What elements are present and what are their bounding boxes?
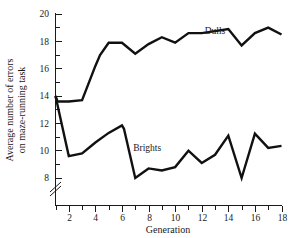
x-tick-label: 12 [198, 213, 208, 223]
y-tick-label: 20 [40, 9, 50, 19]
y-axis-tick-labels: 8101214161820 [40, 9, 50, 183]
series-line-dulls [56, 28, 282, 102]
x-tick-label: 8 [147, 213, 152, 223]
y-tick-label: 8 [44, 173, 49, 183]
line-chart: 8101214161820 24681012141618 Dulls Brigh… [0, 0, 289, 238]
x-axis-title: Generation [146, 224, 190, 235]
x-axis-tick-labels: 24681012141618 [67, 213, 287, 223]
chart-figure: 8101214161820 24681012141618 Dulls Brigh… [0, 0, 289, 238]
x-tick-label: 4 [93, 213, 98, 223]
y-axis-title-line2: on maze-running task [16, 67, 27, 154]
series-label-brights: Brights [133, 143, 161, 153]
x-tick-label: 2 [67, 213, 72, 223]
y-tick-label: 16 [40, 64, 50, 74]
series-line-brights [56, 96, 282, 178]
x-tick-label: 14 [224, 213, 234, 223]
x-tick-label: 10 [171, 213, 181, 223]
x-tick-label: 16 [251, 213, 261, 223]
x-tick-label: 18 [278, 213, 288, 223]
y-axis-title-line1: Average number of errors [4, 58, 15, 161]
x-tick-label: 6 [120, 213, 125, 223]
y-tick-label: 18 [40, 37, 50, 47]
x-axis-ticks [57, 206, 283, 212]
y-tick-label: 12 [40, 119, 50, 129]
y-tick-label: 14 [40, 91, 50, 101]
y-tick-label: 10 [40, 146, 50, 156]
series-lines-group [56, 28, 282, 178]
series-label-dulls: Dulls [205, 26, 226, 36]
